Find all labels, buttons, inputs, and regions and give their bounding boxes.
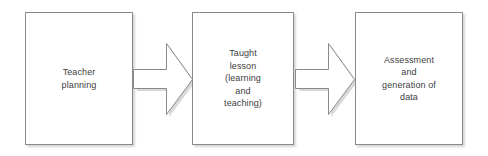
arrow-right-icon: [296, 44, 355, 115]
flow-arrow-lesson-to-assessment: [295, 42, 355, 116]
process-flow-diagram: Teacher planning Taught lesson (learning…: [0, 0, 488, 156]
flow-node-teacher-planning: Teacher planning: [25, 12, 133, 145]
flow-arrow-planning-to-lesson: [133, 42, 193, 116]
flow-node-assessment-generation-of-data: Assessment and generation of data: [355, 12, 463, 145]
arrow-right-icon: [134, 44, 193, 115]
flow-node-label: Assessment and generation of data: [382, 54, 436, 104]
flow-node-taught-lesson: Taught lesson (learning and teaching): [192, 12, 294, 145]
flow-node-label: Taught lesson (learning and teaching): [224, 47, 262, 110]
flow-node-label: Teacher planning: [62, 66, 97, 91]
